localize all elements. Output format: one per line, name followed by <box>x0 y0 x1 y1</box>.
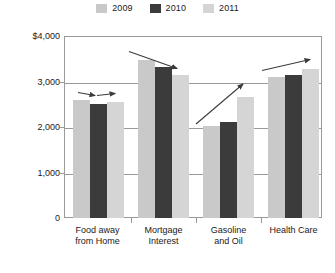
bar-mortgage-interest-2009 <box>138 60 155 218</box>
bar-food-away-from-home-2009 <box>73 100 90 218</box>
legend-item-2011: 2011 <box>203 4 239 13</box>
bar-gasoline-and-oil-2010 <box>220 122 237 219</box>
y-tick-label-4000: $4,000 <box>2 32 60 41</box>
legend-swatch-2011 <box>203 4 214 13</box>
category-label-line-1: Mortgage <box>131 225 196 236</box>
bar-mortgage-interest-2011 <box>172 75 189 218</box>
legend-swatch-2010 <box>150 4 161 13</box>
legend-item-2010: 2010 <box>150 4 186 13</box>
bar-mortgage-interest-2010 <box>155 67 172 219</box>
y-tick-label-0: 0 <box>2 214 60 223</box>
category-label-line-1: Health Care <box>261 225 326 236</box>
category-label-food-away-from-home: Food away from Home <box>64 225 131 247</box>
bar-food-away-from-home-2010 <box>90 104 107 218</box>
grouped-bar-chart: 2009 2010 2011 $4,000 3,000 2,000 1,000 … <box>0 0 335 273</box>
category-label-line-2: from Home <box>64 236 131 247</box>
y-tick-label-2000: 2,000 <box>2 123 60 132</box>
legend-label-2009: 2009 <box>112 4 132 13</box>
category-label-line-1: Food away <box>64 225 131 236</box>
chart-legend: 2009 2010 2011 <box>0 4 335 13</box>
y-axis: $4,000 3,000 2,000 1,000 0 <box>0 36 60 218</box>
bar-health-care-2009 <box>268 77 285 218</box>
category-separator-2 <box>196 218 197 223</box>
bars-layer <box>64 36 322 218</box>
category-label-health-care: Health Care <box>261 225 326 236</box>
category-separator-1 <box>131 218 132 223</box>
y-tick-label-3000: 3,000 <box>2 78 60 87</box>
bar-health-care-2010 <box>285 75 302 218</box>
legend-item-2009: 2009 <box>96 4 132 13</box>
category-label-line-2: Interest <box>131 236 196 247</box>
category-separator-3 <box>261 218 262 223</box>
category-label-gasoline-and-oil: Gasoline and Oil <box>196 225 261 247</box>
category-label-line-2: and Oil <box>196 236 261 247</box>
category-label-line-1: Gasoline <box>196 225 261 236</box>
category-label-mortgage-interest: Mortgage Interest <box>131 225 196 247</box>
bar-health-care-2011 <box>302 69 319 218</box>
legend-label-2010: 2010 <box>166 4 186 13</box>
legend-label-2011: 2011 <box>219 4 239 13</box>
bar-gasoline-and-oil-2009 <box>203 126 220 218</box>
bar-gasoline-and-oil-2011 <box>237 97 254 218</box>
bar-food-away-from-home-2011 <box>107 102 124 218</box>
legend-swatch-2009 <box>96 4 107 13</box>
y-tick-label-1000: 1,000 <box>2 169 60 178</box>
